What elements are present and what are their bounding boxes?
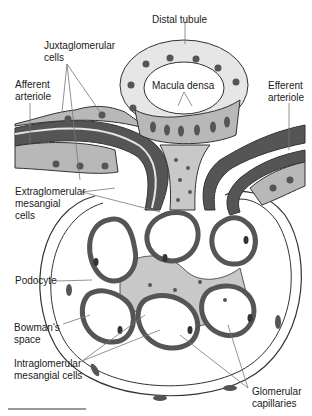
label-podocyte: Podocyte [15,275,57,287]
label-distal-tubule: Distal tubule [152,14,207,26]
label-juxtaglomerular-cells: Juxtaglomerular cells [44,40,115,64]
glomerular-capillaries [82,212,255,348]
label-afferent-arteriole: Afferent arteriole [15,79,51,103]
label-efferent-arteriole: Efferent arteriole [268,80,304,104]
label-intraglomerular-mesangial-cells: Intraglomerular mesangial cells [14,358,82,382]
label-macula-densa: Macula densa [152,80,214,92]
label-bowmans-space: Bowman's space [14,322,60,346]
label-glomerular-capillaries: Glomerular capillaries [252,386,301,410]
label-extraglomerular-mesangial-cells: Extraglomerular mesangial cells [15,186,86,222]
